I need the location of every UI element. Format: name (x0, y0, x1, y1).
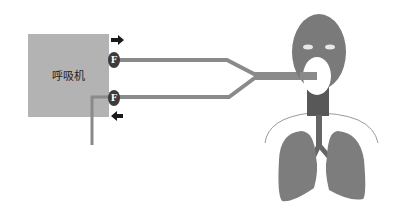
right-eye (325, 45, 335, 50)
arrow-right-icon (111, 35, 124, 45)
right-lung (326, 131, 365, 200)
ventilator-label: 呼吸机 (52, 69, 85, 83)
patient (265, 14, 378, 201)
arrow-left-icon (111, 111, 123, 121)
flow-sensor-inspiratory: F (108, 52, 120, 68)
ventilator: 呼吸机 (28, 34, 109, 117)
ventilator-circuit-diagram: 呼吸机 F F (0, 0, 402, 219)
expiratory-tube (115, 77, 256, 97)
mask-port (300, 72, 317, 80)
flow-sensor-label: F (111, 93, 118, 103)
flow-sensor-label: F (111, 55, 118, 65)
trachea (316, 115, 322, 148)
left-lung (278, 131, 317, 201)
left-eye (303, 45, 313, 50)
flow-sensor-expiratory: F (108, 90, 120, 106)
